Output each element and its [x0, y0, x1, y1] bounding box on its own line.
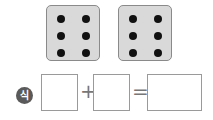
- pip: [129, 49, 137, 57]
- die-six-left: [46, 5, 100, 61]
- pip: [57, 49, 65, 57]
- pip: [57, 32, 65, 40]
- pip: [82, 32, 90, 40]
- equation-badge: 식: [16, 87, 33, 104]
- pip: [82, 49, 90, 57]
- answer-box-2[interactable]: [93, 74, 130, 111]
- pip: [154, 15, 162, 23]
- pip: [57, 15, 65, 23]
- die-six-right: [118, 5, 172, 61]
- pip: [129, 32, 137, 40]
- answer-box-1[interactable]: [41, 74, 78, 111]
- pip: [154, 32, 162, 40]
- pip: [129, 15, 137, 23]
- pip: [82, 15, 90, 23]
- pip: [154, 49, 162, 57]
- answer-box-result[interactable]: [147, 74, 202, 111]
